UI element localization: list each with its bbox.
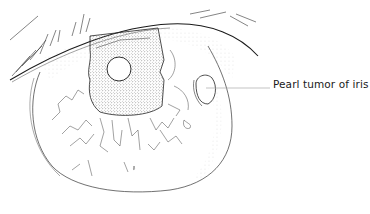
eye-illustration [0, 0, 370, 214]
pearl-tumor [196, 75, 215, 104]
annotation-pearl-tumor-label: Pearl tumor of iris [273, 78, 368, 90]
pupil [107, 57, 131, 81]
